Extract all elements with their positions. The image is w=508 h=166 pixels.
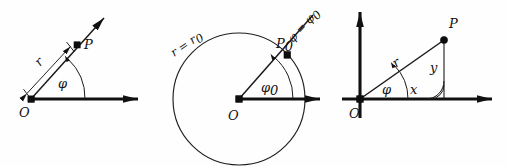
point-p [440, 36, 447, 43]
origin-o-label: O [349, 106, 360, 121]
radius-label: r = r0 [168, 28, 207, 62]
ordinate-label: y [429, 60, 438, 75]
origin-o [236, 96, 243, 103]
diagram-cartesian: P O r y x φ [334, 0, 508, 166]
radius-label: r [31, 54, 47, 69]
point-p-label: P [448, 16, 458, 31]
origin-o-label: O [19, 105, 30, 120]
point-p [74, 42, 80, 48]
angle-label: φ0 [261, 80, 278, 98]
angle-label: φ [58, 76, 68, 91]
right-angle-mark [426, 81, 444, 99]
diagram-polar-point: P O r φ [0, 0, 160, 166]
point-p-label: P [83, 37, 93, 52]
diagram-circle-radius: P0 O r = r0 φ = φ0 φ0 [160, 0, 334, 166]
ray-angle-label: φ = φ0 [285, 6, 325, 47]
angle-label: φ [382, 82, 392, 97]
origin-o-label: O [228, 108, 239, 123]
origin-o [357, 96, 364, 103]
angle-arc [65, 56, 85, 99]
origin-o [28, 96, 34, 102]
figure-root: P O r φ [0, 0, 508, 166]
radius-label: r [389, 54, 403, 70]
abscissa-label: x [410, 82, 418, 97]
